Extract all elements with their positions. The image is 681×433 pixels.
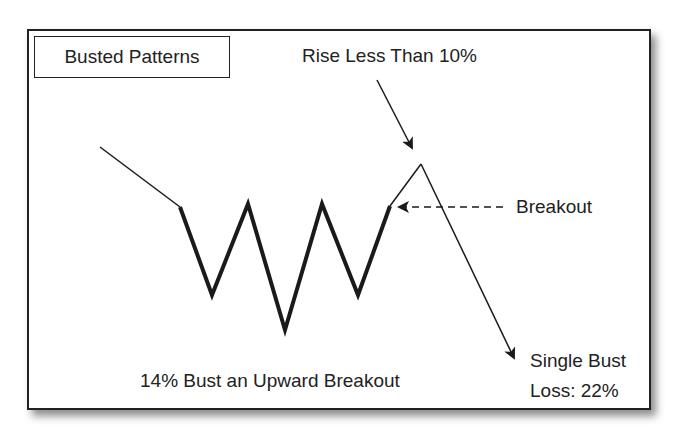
- breakout-label: Breakout: [516, 196, 592, 219]
- lead-in-line: [100, 147, 180, 207]
- bust-rise-line: [390, 164, 421, 206]
- single-bust-label: Single Bust: [530, 350, 626, 373]
- rise-label: Rise Less Than 10%: [302, 45, 477, 68]
- loss-label: Loss: 22%: [530, 380, 619, 403]
- caption-label: 14% Bust an Upward Breakout: [140, 370, 400, 393]
- bust-drop-arrow: [421, 164, 514, 358]
- rise-arrow: [377, 80, 412, 148]
- pattern-zigzag: [180, 204, 390, 330]
